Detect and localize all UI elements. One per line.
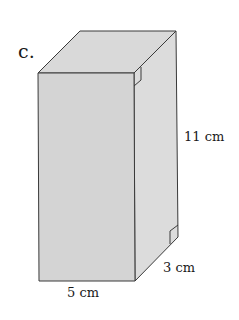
height-label: 11 cm (184, 129, 224, 144)
width-label: 5 cm (67, 285, 99, 300)
depth-label: 3 cm (163, 260, 195, 275)
prism-front-face (38, 73, 135, 281)
part-label: c. (18, 40, 35, 62)
rectangular-prism-diagram: c. 11 cm 3 cm 5 cm (0, 0, 239, 320)
